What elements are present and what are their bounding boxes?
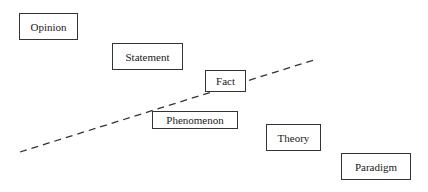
node-paradigm-label: Paradigm	[355, 161, 397, 173]
node-opinion: Opinion	[19, 13, 78, 40]
node-theory-label: Theory	[278, 132, 310, 144]
node-opinion-label: Opinion	[30, 21, 66, 33]
node-theory: Theory	[266, 124, 321, 151]
node-phenomenon: Phenomenon	[152, 111, 238, 129]
node-phenomenon-label: Phenomenon	[166, 114, 223, 126]
node-paradigm: Paradigm	[341, 153, 411, 180]
node-fact: Fact	[205, 70, 246, 92]
node-statement: Statement	[112, 43, 183, 70]
node-fact-label: Fact	[216, 75, 235, 87]
node-statement-label: Statement	[126, 51, 170, 63]
